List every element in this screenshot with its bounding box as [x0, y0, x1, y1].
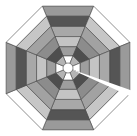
center-circle	[63, 63, 73, 73]
cardinal-ring-segment	[16, 47, 26, 90]
cardinal-ring-segment	[51, 26, 85, 36]
cardinal-ring-segment	[42, 6, 93, 16]
cardinal-ring-segment	[51, 99, 85, 109]
cardinal-ring-segment	[47, 110, 90, 120]
cardinal-ring-segment	[6, 42, 16, 93]
octagon-ring-diagram	[0, 0, 137, 136]
cardinal-ring-segment	[110, 47, 120, 90]
cardinal-ring-segment	[47, 16, 90, 26]
cardinal-ring-segment	[42, 120, 93, 130]
cardinal-ring-segment	[26, 51, 36, 85]
cardinal-ring-segment	[120, 42, 130, 93]
